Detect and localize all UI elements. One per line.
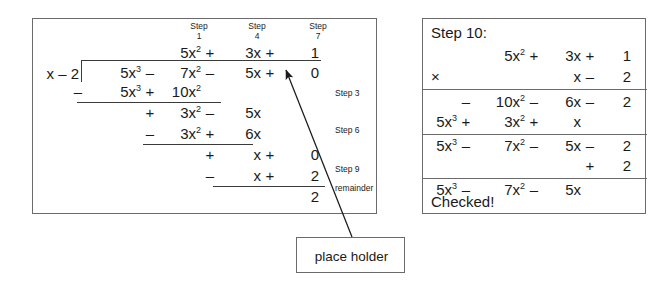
- check-rule-1: [423, 89, 647, 90]
- dividend-term-3: 5x: [219, 65, 261, 80]
- check-factor-bottom-op-1: –: [581, 69, 599, 84]
- bringdown2-op-1: +: [261, 147, 279, 162]
- subtraction-rule-1: [77, 102, 221, 103]
- check-panel: Step 10: 5x2 + 3x + 1 × x – 2 – 10x2 – 6…: [422, 18, 646, 214]
- subtract1-op-1: +: [141, 84, 159, 99]
- divisor: x – 2: [35, 66, 79, 81]
- check-conclusion: Checked!: [431, 194, 494, 209]
- subtract2-sign: –: [141, 126, 159, 141]
- placeholder-callout-box: place holder: [296, 237, 405, 273]
- placeholder-callout-label: place holder: [297, 238, 406, 274]
- step-label-7: Step 7: [298, 21, 338, 41]
- bringdown2-sign: +: [201, 147, 219, 162]
- subtract1-term-1: 5x3: [89, 84, 141, 99]
- check-product-term-3: 2: [599, 138, 631, 153]
- check-partial1-term-3: 2: [599, 94, 631, 109]
- dividend-op-1: –: [141, 65, 159, 80]
- check-partial2-op-2: +: [525, 114, 543, 129]
- bringdown2-term-1: x: [219, 147, 261, 162]
- subtraction-rule-3: [213, 186, 325, 187]
- check-product-op-2: –: [525, 138, 543, 153]
- bringdown1-op-1: –: [201, 105, 219, 120]
- check-product-term-2: 5x: [543, 138, 581, 153]
- check-partial1-op-2: –: [581, 94, 599, 109]
- remainder-value: 2: [279, 189, 319, 204]
- long-division-panel: Step 1 Step 4 Step 7 5x2 + 3x + 1 x – 2 …: [32, 18, 377, 214]
- check-factor-top-op-1: +: [525, 48, 543, 63]
- check-product-op-3: –: [581, 138, 599, 153]
- check-partial2-op-1: +: [457, 114, 475, 129]
- step-label-1: Step 1: [179, 21, 219, 41]
- check-add-remainder-value: 2: [599, 158, 631, 173]
- subtraction-rule-2: [143, 144, 253, 145]
- check-factor-bottom-term-2: 2: [599, 69, 631, 84]
- quotient-term-3: 1: [279, 45, 319, 60]
- multiply-icon: ×: [431, 69, 440, 84]
- dividend-op-3: +: [261, 65, 279, 80]
- bringdown2-term-2: 0: [279, 147, 319, 162]
- dividend-term-2: 7x2: [159, 65, 201, 80]
- bringdown1-term-2: 5x: [219, 105, 261, 120]
- subtract3-op-1: +: [261, 168, 279, 183]
- check-result-term-2: 5x: [543, 182, 581, 197]
- subtract3-term-2: 2: [279, 168, 319, 183]
- check-result-op-2: –: [525, 182, 543, 197]
- subtract3-sign: –: [201, 168, 219, 183]
- check-partial1-term-2: 6x: [543, 94, 581, 109]
- check-add-remainder-op: +: [581, 158, 599, 173]
- subtract2-term-1: 3x2: [159, 126, 201, 141]
- division-bracket-bar: [81, 60, 82, 82]
- quotient-op-1: +: [201, 45, 219, 60]
- quotient-term-2: 3x: [219, 45, 261, 60]
- quotient-term-1: 5x2: [149, 45, 201, 60]
- check-partial2-term-0: 5x3: [425, 114, 457, 129]
- check-factor-top-term-1: 5x2: [475, 48, 525, 63]
- check-partial2-term-1: 3x2: [475, 114, 525, 129]
- dividend-placeholder-zero: 0: [279, 65, 319, 80]
- side-label-step-3: Step 3: [335, 88, 360, 98]
- check-heading: Step 10:: [431, 25, 487, 40]
- side-label-step-9: Step 9: [335, 164, 360, 174]
- check-product-term-1: 7x2: [475, 138, 525, 153]
- check-partial1-op-0: –: [457, 94, 475, 109]
- check-factor-bottom-term-1: x: [543, 69, 581, 84]
- subtract1-sign: –: [69, 84, 87, 99]
- check-factor-top-term-2: 3x: [543, 48, 581, 63]
- check-product-term-0: 5x3: [425, 138, 457, 153]
- division-vinculum: [81, 60, 321, 61]
- subtract2-op-1: +: [201, 126, 219, 141]
- subtract2-term-2: 6x: [219, 126, 261, 141]
- dividend-term-1: 5x3: [89, 65, 141, 80]
- check-partial2-term-2: x: [543, 114, 581, 129]
- check-rule-2: [423, 134, 647, 135]
- bringdown1-term-1: 3x2: [159, 105, 201, 120]
- check-factor-top-term-3: 1: [599, 48, 631, 63]
- dividend-op-2: –: [201, 65, 219, 80]
- check-partial1-op-1: –: [525, 94, 543, 109]
- side-label-remainder: remainder: [335, 183, 373, 193]
- diagram-canvas: Step 1 Step 4 Step 7 5x2 + 3x + 1 x – 2 …: [0, 0, 667, 289]
- check-partial1-term-1: 10x2: [475, 94, 525, 109]
- step-label-4: Step 4: [237, 21, 277, 41]
- subtract3-term-1: x: [219, 168, 261, 183]
- side-label-step-6: Step 6: [335, 125, 360, 135]
- check-rule-3: [423, 178, 647, 179]
- subtract1-term-2: 10x2: [159, 84, 201, 99]
- check-product-op-1: –: [457, 138, 475, 153]
- bringdown1-sign: +: [141, 105, 159, 120]
- check-factor-top-op-2: +: [581, 48, 599, 63]
- quotient-op-2: +: [261, 45, 279, 60]
